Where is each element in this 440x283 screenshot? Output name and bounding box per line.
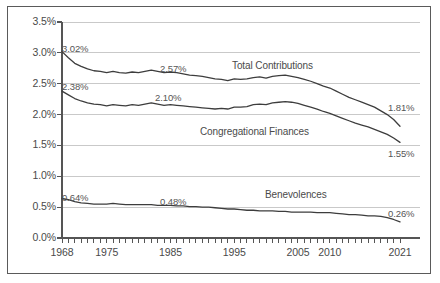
y-axis-label: 3.0% xyxy=(12,46,56,58)
y-tick-marks-group xyxy=(57,22,62,238)
series-line-0 xyxy=(62,52,400,127)
series-line-2 xyxy=(62,199,400,222)
series-value-label: 0.48% xyxy=(160,196,186,207)
series-value-label: 0.26% xyxy=(388,208,414,219)
series-value-label: 2.10% xyxy=(155,92,181,103)
x-axis-label: 1975 xyxy=(87,246,127,258)
x-axis-label: 2021 xyxy=(380,246,420,258)
y-axis-label: 1.5% xyxy=(12,138,56,150)
x-axis-label: 1968 xyxy=(42,246,82,258)
series-value-label: 2.57% xyxy=(160,63,186,74)
y-axis-label: 0.0% xyxy=(12,231,56,243)
series-name-label: Benevolences xyxy=(265,189,327,200)
y-axis-label: 3.5% xyxy=(12,15,56,27)
x-tick-marks-group xyxy=(62,238,400,243)
series-value-label: 1.81% xyxy=(388,102,414,113)
series-value-label: 2.38% xyxy=(62,81,88,92)
series-value-label: 3.02% xyxy=(62,43,88,54)
series-name-label: Congregational Finances xyxy=(200,126,309,137)
series-value-label: 0.64% xyxy=(62,192,88,203)
y-axis-label: 1.0% xyxy=(12,169,56,181)
x-axis-label: 2010 xyxy=(310,246,350,258)
y-axis-label: 0.5% xyxy=(12,200,56,212)
series-name-label: Total Contributions xyxy=(232,60,313,71)
series-value-label: 1.55% xyxy=(388,148,414,159)
y-axis-label: 2.0% xyxy=(12,108,56,120)
x-axis-label: 1995 xyxy=(214,246,254,258)
y-axis-label: 2.5% xyxy=(12,77,56,89)
chart-figure: 0.0%0.5%1.0%1.5%2.0%2.5%3.0%3.5% 1968197… xyxy=(0,0,440,283)
x-axis-label: 1985 xyxy=(150,246,190,258)
